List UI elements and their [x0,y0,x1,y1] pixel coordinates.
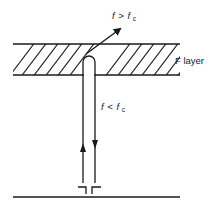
up-arrow-icon [80,143,86,152]
svg-text:f < f c: f < f c [101,101,126,113]
above-critical-label: f > f c [112,10,137,22]
antenna-icon [78,187,101,194]
ionosphere-diagram: F layer f > f c f < f c [0,0,216,208]
down-arrow-icon [92,140,98,149]
f-layer-label: F layer [175,55,204,66]
svg-text:f > f c: f > f c [112,10,137,22]
escaping-ray [86,29,120,54]
below-critical-label: f < f c [101,101,126,113]
